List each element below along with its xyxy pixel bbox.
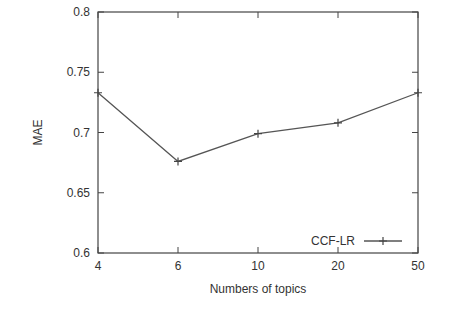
x-tick-label: 4: [95, 259, 102, 273]
x-tick-label: 20: [331, 259, 345, 273]
y-tick-label: 0.75: [67, 65, 91, 79]
y-axis-label: MAE: [31, 119, 45, 145]
legend-label: CCF-LR: [311, 234, 355, 248]
x-tick-label: 10: [251, 259, 265, 273]
data-point-marker: [334, 119, 342, 127]
data-point-marker: [254, 130, 262, 138]
y-tick-label: 0.7: [73, 126, 90, 140]
y-tick-label: 0.6: [73, 246, 90, 260]
legend-marker: [379, 237, 387, 245]
x-tick-label: 6: [175, 259, 182, 273]
x-axis-label: Numbers of topics: [210, 282, 307, 296]
x-tick-label: 50: [411, 259, 425, 273]
y-tick-label: 0.65: [67, 186, 91, 200]
series-line: [98, 93, 418, 162]
y-tick-label: 0.8: [73, 5, 90, 19]
data-point-marker: [414, 89, 422, 97]
chart: 0.60.650.70.750.846102050Numbers of topi…: [0, 0, 449, 310]
line-chart: 0.60.650.70.750.846102050Numbers of topi…: [0, 0, 449, 310]
